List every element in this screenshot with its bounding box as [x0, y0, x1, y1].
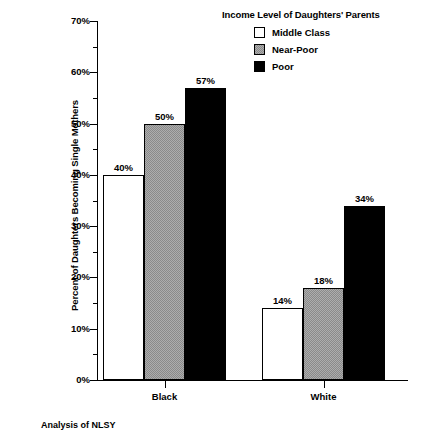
y-tick-10: 10% — [0, 329, 90, 330]
x-axis-label-black: Black — [152, 391, 177, 402]
legend-title: Income Level of Daughters' Parents — [222, 9, 380, 20]
y-tick-30: 30% — [0, 226, 90, 227]
y-tick-mark-70 — [90, 21, 97, 22]
bar-value-black-poor: 57% — [185, 75, 226, 86]
bar-chart: Percent of Daughters Becoming Single Mot… — [0, 0, 423, 447]
legend-label-middle-class: Middle Class — [272, 27, 330, 38]
bar-white-near-poor[interactable] — [303, 288, 344, 380]
y-tick-mark-50 — [90, 124, 97, 125]
x-tick-black — [165, 381, 166, 388]
chart-footnote: Analysis of NLSY — [41, 420, 116, 430]
legend-swatch-near-poor-icon — [254, 44, 265, 55]
x-axis-label-white: White — [311, 391, 337, 402]
legend-item-near-poor[interactable]: Near-Poor — [254, 44, 380, 55]
bar-value-white-middle-class: 14% — [262, 295, 303, 306]
y-tick-label-30: 30% — [38, 220, 90, 231]
bar-black-near-poor[interactable] — [144, 124, 185, 380]
y-tick-50: 50% — [0, 124, 90, 125]
bar-value-black-near-poor: 50% — [144, 111, 185, 122]
bar-white-poor[interactable] — [344, 206, 385, 380]
y-minor-tick-65 — [93, 47, 97, 48]
y-tick-label-40: 40% — [38, 169, 90, 180]
bar-black-poor[interactable] — [185, 88, 226, 380]
y-tick-label-0: 0% — [38, 374, 90, 385]
y-tick-40: 40% — [0, 175, 90, 176]
legend-item-poor[interactable]: Poor — [254, 61, 380, 72]
legend-swatch-middle-class-icon — [254, 27, 265, 38]
y-tick-mark-40 — [90, 175, 97, 176]
y-tick-0: 0% — [0, 380, 90, 381]
legend-item-middle-class[interactable]: Middle Class — [254, 27, 380, 38]
y-tick-70: 70% — [0, 21, 90, 22]
y-tick-60: 60% — [0, 72, 90, 73]
y-minor-tick-45 — [93, 149, 97, 150]
bar-value-black-middle-class: 40% — [103, 162, 144, 173]
y-tick-label-60: 60% — [38, 66, 90, 77]
y-tick-label-70: 70% — [38, 15, 90, 26]
y-minor-tick-55 — [93, 98, 97, 99]
bar-white-middle-class[interactable] — [262, 308, 303, 380]
y-tick-label-20: 20% — [38, 271, 90, 282]
legend-swatch-poor-icon — [254, 61, 265, 72]
y-tick-mark-20 — [90, 277, 97, 278]
y-minor-tick-5 — [93, 354, 97, 355]
x-tick-white — [324, 381, 325, 388]
chart-legend: Income Level of Daughters' Parents Middl… — [222, 9, 380, 78]
y-minor-tick-15 — [93, 303, 97, 304]
y-tick-mark-30 — [90, 226, 97, 227]
y-minor-tick-35 — [93, 201, 97, 202]
bar-value-white-near-poor: 18% — [303, 275, 344, 286]
y-tick-label-10: 10% — [38, 323, 90, 334]
x-axis-line — [97, 380, 408, 381]
bar-black-middle-class[interactable] — [103, 175, 144, 380]
y-tick-20: 20% — [0, 277, 90, 278]
y-tick-mark-60 — [90, 72, 97, 73]
bar-value-white-poor: 34% — [344, 193, 385, 204]
y-minor-tick-25 — [93, 252, 97, 253]
y-tick-mark-0 — [90, 380, 97, 381]
y-tick-label-50: 50% — [38, 118, 90, 129]
legend-label-poor: Poor — [272, 61, 294, 72]
legend-label-near-poor: Near-Poor — [272, 44, 318, 55]
y-tick-mark-10 — [90, 329, 97, 330]
